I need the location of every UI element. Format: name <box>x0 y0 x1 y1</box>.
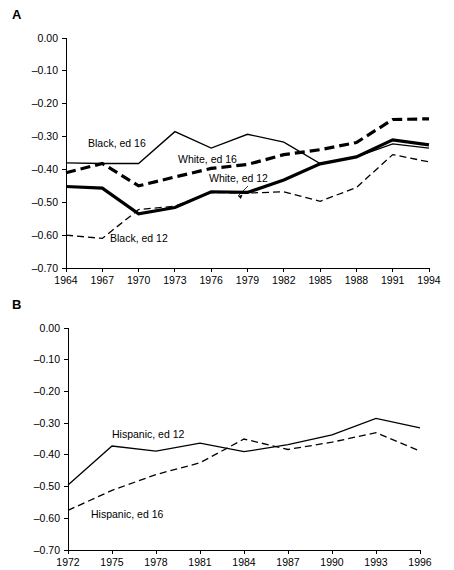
y-tick-label: –0.40 <box>32 163 58 175</box>
y-tick-label: –0.20 <box>32 97 58 109</box>
y-tick-label: –0.40 <box>34 448 60 460</box>
series-annotation-label: Black, ed 12 <box>110 232 168 244</box>
x-tick-label: 1985 <box>308 274 332 286</box>
x-tick-label: 1988 <box>345 274 369 286</box>
x-tick-label: 1987 <box>276 556 300 568</box>
series-annotation-label: White, ed 16 <box>178 153 237 165</box>
figure-container: A 0.00–0.10–0.20–0.30–0.40–0.50–0.60–0.7… <box>0 0 454 570</box>
series-annotation-label: Hispanic, ed 12 <box>112 428 185 440</box>
y-tick-label: –0.10 <box>34 353 60 365</box>
panel-b: B 0.00–0.10–0.20–0.30–0.40–0.50–0.60–0.7… <box>0 290 454 570</box>
y-tick-label: 0.00 <box>40 322 61 334</box>
x-tick-label: 1984 <box>232 556 256 568</box>
x-tick-label: 1975 <box>100 556 124 568</box>
panel-a-chart: 0.00–0.10–0.20–0.30–0.40–0.50–0.60–0.701… <box>0 0 454 290</box>
y-tick-label: –0.20 <box>34 385 60 397</box>
x-tick-label: 1990 <box>320 556 344 568</box>
panel-a-label: A <box>12 8 21 21</box>
y-tick-label: 0.00 <box>38 32 59 44</box>
x-tick-label: 1970 <box>127 274 151 286</box>
y-tick-label: –0.50 <box>32 196 58 208</box>
panel-b-label: B <box>12 298 21 311</box>
series-line-4 <box>66 155 429 239</box>
y-tick-label: –0.30 <box>32 130 58 142</box>
panel-a: A 0.00–0.10–0.20–0.30–0.40–0.50–0.60–0.7… <box>0 0 454 290</box>
y-tick-label: –0.60 <box>34 512 60 524</box>
x-tick-label: 1981 <box>188 556 212 568</box>
y-tick-label: –0.70 <box>32 262 58 274</box>
x-tick-label: 1996 <box>408 556 432 568</box>
y-tick-label: –0.60 <box>32 229 58 241</box>
x-tick-label: 1982 <box>272 274 296 286</box>
y-tick-label: –0.10 <box>32 64 58 76</box>
panel-b-chart: 0.00–0.10–0.20–0.30–0.40–0.50–0.60–0.701… <box>0 290 454 570</box>
x-tick-label: 1972 <box>56 556 80 568</box>
x-tick-label: 1994 <box>417 274 441 286</box>
y-tick-label: –0.70 <box>34 544 60 556</box>
series-annotation-label: White, ed 12 <box>209 172 268 184</box>
x-tick-label: 1993 <box>364 556 388 568</box>
series-line-2 <box>68 433 420 511</box>
x-tick-label: 1964 <box>54 274 78 286</box>
x-tick-label: 1973 <box>163 274 187 286</box>
x-tick-label: 1967 <box>91 274 115 286</box>
series-annotation-label: Hispanic, ed 16 <box>91 508 164 520</box>
x-tick-label: 1976 <box>200 274 224 286</box>
x-tick-label: 1978 <box>144 556 168 568</box>
y-tick-label: –0.30 <box>34 417 60 429</box>
series-annotation-label: Black, ed 16 <box>88 137 146 149</box>
y-tick-label: –0.50 <box>34 480 60 492</box>
x-tick-label: 1991 <box>381 274 405 286</box>
x-tick-label: 1979 <box>236 274 260 286</box>
